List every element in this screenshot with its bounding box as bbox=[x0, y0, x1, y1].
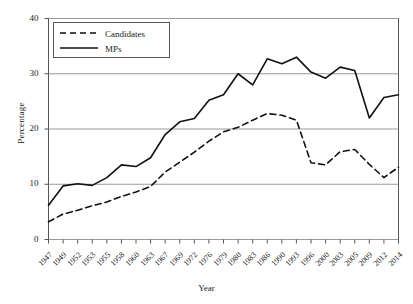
legend-label-mps: MPs bbox=[105, 44, 122, 54]
chart-figure: Candidates MPs 010203040 194719491952195… bbox=[0, 0, 413, 304]
data-series-group bbox=[49, 57, 399, 222]
y-tick-label-30: 30 bbox=[15, 68, 39, 78]
y-tick-label-10: 10 bbox=[15, 178, 39, 188]
chart-legend: Candidates MPs bbox=[54, 23, 170, 58]
x-tick-marks bbox=[49, 240, 399, 244]
legend-label-candidates: Candidates bbox=[105, 29, 145, 39]
y-tick-label-0: 0 bbox=[15, 234, 39, 244]
y-tick-label-40: 40 bbox=[15, 13, 39, 23]
y-tick-marks bbox=[45, 19, 49, 240]
series-line-candidates bbox=[49, 114, 399, 222]
x-axis-title: Year bbox=[0, 283, 413, 293]
y-axis-title: Percentage bbox=[16, 83, 26, 163]
